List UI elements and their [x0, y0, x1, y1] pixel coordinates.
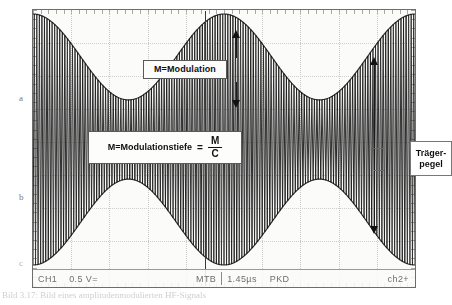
status-channel2: ch2+	[388, 274, 409, 284]
status-divider	[221, 272, 222, 285]
status-volts-per-div: 0.5 V=	[69, 274, 98, 284]
status-time-per-div: 1.45µs	[227, 274, 257, 284]
figure-caption: Bild 3.17: Bild eines amplitudenmodulier…	[2, 290, 332, 303]
scope-status-bar: CH1 0.5 V= MTB 1.45µs PKD ch2+	[33, 269, 415, 287]
callout-modulation-depth-formula: M=Modulationstiefe = M C	[88, 131, 242, 164]
status-acquisition-mode: PKD	[270, 274, 290, 284]
modulation-arrow-shaft-top	[236, 36, 237, 58]
side-label-b: b	[19, 192, 24, 202]
formula-numerator: M	[208, 136, 222, 147]
carrier-label-line2: pegel	[419, 159, 443, 169]
callout-carrier-level: Träger- pegel	[410, 141, 452, 176]
callout-modulation-label: M=Modulation	[154, 64, 216, 74]
modulation-arrow-down-icon	[232, 100, 240, 108]
side-label-a: a	[19, 93, 23, 103]
formula-fraction: M C	[208, 136, 222, 159]
carrier-leader-tick	[374, 148, 384, 149]
carrier-leader-tick	[374, 170, 384, 171]
carrier-label-line1: Träger-	[416, 148, 447, 158]
formula-denominator: C	[208, 147, 221, 159]
formula-left-term: M=Modulationstiefe	[108, 142, 192, 152]
status-timebase-mode: MTB	[196, 274, 216, 284]
carrier-arrow-down-icon	[370, 226, 378, 234]
status-channel1: CH1	[38, 274, 57, 284]
side-label-c: c	[19, 258, 23, 268]
formula-equals: =	[197, 142, 203, 154]
callout-modulation: M=Modulation	[143, 60, 227, 79]
